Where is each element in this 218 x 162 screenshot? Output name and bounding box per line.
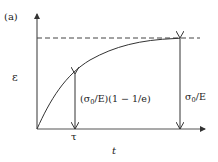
x-axis-label: t <box>112 146 116 156</box>
panel-label: (a) <box>4 12 18 22</box>
creep-strain-diagram <box>0 0 218 162</box>
right-annotation: σ0/E <box>185 92 206 104</box>
right-annotation-rest: /E <box>196 91 206 102</box>
creep-curve <box>37 38 180 129</box>
tau-label: τ <box>71 132 77 142</box>
mid-annotation-rest: /E)(1 − 1/e) <box>94 93 150 104</box>
y-axis-label: ε <box>12 72 18 83</box>
mid-annotation: (σ0/E)(1 − 1/e) <box>80 94 151 106</box>
